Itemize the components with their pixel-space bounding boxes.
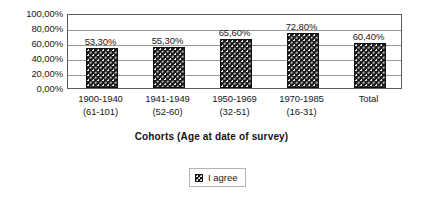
- category-label-line1: 1970-1985: [279, 93, 324, 104]
- category-label-line1: Total: [359, 93, 379, 104]
- category-label-line1: 1941-1949: [145, 93, 190, 104]
- y-tick-label: 0,00%: [0, 83, 63, 94]
- y-tick-label: 40,00%: [0, 53, 63, 64]
- data-label: 65,60%: [219, 27, 251, 38]
- category-label-line1: 1950-1969: [212, 93, 257, 104]
- category-label: 1900-1940 (61-101): [78, 93, 123, 118]
- category-label: Total: [359, 93, 379, 106]
- bar-1941-1949[interactable]: [153, 47, 185, 88]
- data-label: 72,80%: [286, 21, 318, 32]
- bar-1900-1940[interactable]: [86, 48, 118, 88]
- category-label: 1950-1969 (32-51): [212, 93, 257, 118]
- bar-slot: [68, 15, 135, 88]
- bar-total[interactable]: [354, 43, 386, 88]
- bar-slot: [135, 15, 202, 88]
- data-label: 60,40%: [353, 31, 385, 42]
- y-tick-label: 20,00%: [0, 68, 63, 79]
- category-label: 1970-1985 (16-31): [279, 93, 324, 118]
- x-axis-title: Cohorts (Age at date of survey): [0, 131, 423, 142]
- x-axis-category-labels: 1900-1940 (61-101) 1941-1949 (52-60) 195…: [67, 93, 402, 121]
- category-label-line2: (32-51): [212, 106, 257, 119]
- chart-legend: I agree: [189, 168, 246, 187]
- category-label-line2: (61-101): [78, 106, 123, 119]
- category-label-line1: 1900-1940: [78, 93, 123, 104]
- legend-swatch-icon: [195, 174, 203, 182]
- y-tick-label: 60,00%: [0, 38, 63, 49]
- bar-slot: [336, 15, 403, 88]
- y-axis-tick-labels: 100,00% 80,00% 60,00% 40,00% 20,00% 0,00…: [0, 8, 63, 92]
- legend-entry-label: I agree: [208, 172, 238, 183]
- category-label-line2: (16-31): [279, 106, 324, 119]
- bar-1950-1969[interactable]: [220, 39, 252, 88]
- category-label: 1941-1949 (52-60): [145, 93, 190, 118]
- y-tick-label: 100,00%: [0, 8, 63, 19]
- category-label-line2: (52-60): [145, 106, 190, 119]
- data-label: 55,30%: [152, 35, 184, 46]
- y-tick-label: 80,00%: [0, 23, 63, 34]
- plot-area: [67, 14, 402, 89]
- bar-chart: 100,00% 80,00% 60,00% 40,00% 20,00% 0,00…: [0, 0, 423, 199]
- data-label: 53,30%: [85, 36, 117, 47]
- bar-1970-1985[interactable]: [287, 33, 319, 88]
